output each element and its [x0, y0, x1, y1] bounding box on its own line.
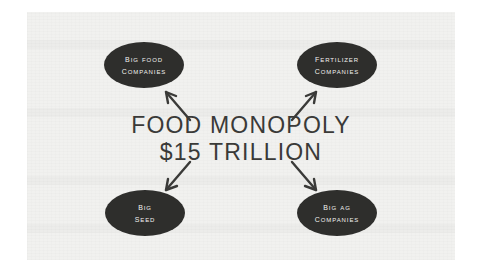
node-label-line1: Big [138, 201, 152, 213]
node-label-line2: Seed [135, 213, 156, 225]
center-headline-line2: $15 TRILLION [120, 139, 362, 166]
center-headline: FOOD MONOPOLY $15 TRILLION [120, 112, 362, 166]
page-showthrough-line [27, 40, 455, 49]
page-showthrough-line [27, 176, 455, 185]
node-fertilizer-companies[interactable]: Fertilizer Companies [297, 42, 377, 88]
node-label-line2: Companies [122, 65, 166, 77]
node-label-line2: Companies [315, 213, 359, 225]
page-showthrough-line [27, 224, 455, 233]
node-label-line1: Big Food [125, 53, 163, 65]
node-big-seed[interactable]: Big Seed [105, 190, 185, 236]
node-label-line1: Fertilizer [315, 53, 359, 65]
center-headline-line1: FOOD MONOPOLY [120, 112, 362, 139]
node-label-line2: Companies [315, 65, 359, 77]
node-big-food-companies[interactable]: Big Food Companies [104, 42, 184, 88]
diagram-canvas: Big Food Companies Fertilizer Companies … [0, 0, 482, 279]
node-big-ag-companies[interactable]: Big Ag Companies [297, 190, 377, 236]
node-label-line1: Big Ag [323, 201, 350, 213]
